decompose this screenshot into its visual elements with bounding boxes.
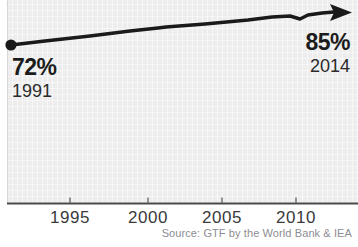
end-value-annotation: 85% 2014 [305, 31, 350, 75]
start-value-percent: 72% [12, 56, 57, 79]
start-value-year: 1991 [12, 82, 57, 100]
end-value-year: 2014 [305, 57, 350, 75]
series-start-marker [5, 39, 16, 50]
end-value-percent: 85% [305, 31, 350, 54]
x-tick-label-2000: 2000 [128, 208, 168, 228]
chart-figure: ACCESS TO ELECTRICITY 72% 1991 85% 2014 … [0, 0, 358, 247]
source-attribution: Source: GTF by the World Bank & IEA [162, 227, 352, 239]
trend-line [11, 12, 334, 45]
x-tick-label-1995: 1995 [50, 208, 90, 228]
x-tick-label-2010: 2010 [276, 208, 316, 228]
start-value-annotation: 72% 1991 [12, 56, 57, 100]
x-tick-label-2005: 2005 [202, 208, 242, 228]
